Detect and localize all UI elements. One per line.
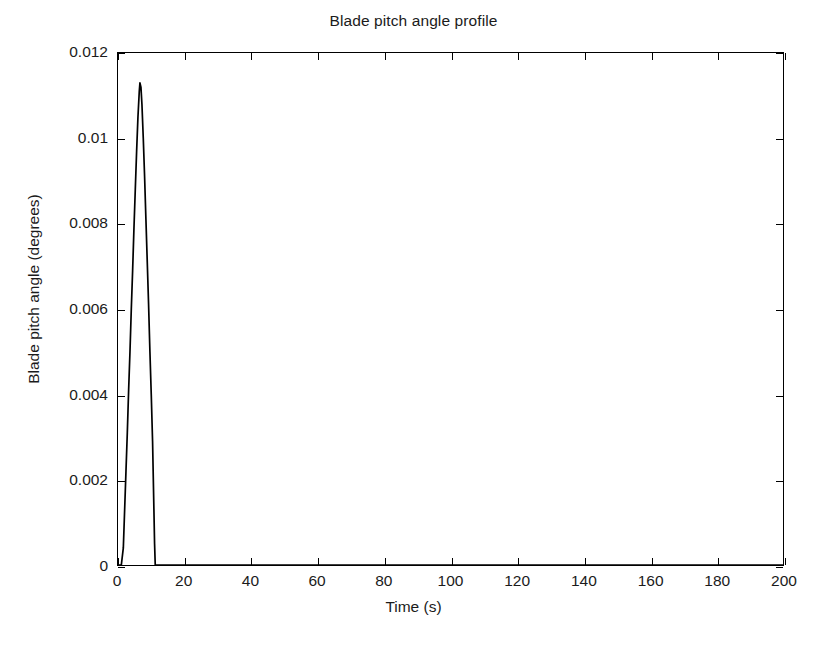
- y-tick-mark-right: [776, 567, 783, 568]
- x-tick-mark: [585, 558, 586, 565]
- y-tick-mark: [118, 224, 125, 225]
- x-tick-mark-top: [318, 53, 319, 60]
- y-tick-mark-right: [776, 53, 783, 54]
- x-tick-mark: [118, 558, 119, 565]
- y-tick-mark-right: [776, 224, 783, 225]
- x-tick-label: 0: [113, 572, 122, 590]
- y-tick-mark-right: [776, 481, 783, 482]
- y-tick-mark: [118, 396, 125, 397]
- data-line-series: [118, 53, 783, 565]
- x-tick-mark: [718, 558, 719, 565]
- x-tick-mark: [251, 558, 252, 565]
- x-tick-label: 180: [704, 572, 730, 590]
- x-tick-mark-top: [385, 53, 386, 60]
- x-tick-mark: [452, 558, 453, 565]
- y-axis-label-container: Blade pitch angle (degrees): [0, 0, 109, 645]
- x-tick-mark: [652, 558, 653, 565]
- x-tick-mark-top: [185, 53, 186, 60]
- x-tick-mark-top: [785, 53, 786, 60]
- x-tick-label: 60: [308, 572, 325, 590]
- x-tick-label: 40: [242, 572, 259, 590]
- chart-title: Blade pitch angle profile: [0, 12, 827, 30]
- y-tick-mark-right: [776, 139, 783, 140]
- x-tick-mark: [318, 558, 319, 565]
- y-tick-mark-right: [776, 396, 783, 397]
- y-tick-mark: [118, 481, 125, 482]
- x-tick-label: 200: [771, 572, 797, 590]
- x-tick-mark-top: [718, 53, 719, 60]
- x-axis-label: Time (s): [0, 598, 827, 616]
- y-tick-mark: [118, 139, 125, 140]
- x-tick-label: 80: [375, 572, 392, 590]
- x-tick-label: 120: [504, 572, 530, 590]
- x-tick-label: 100: [438, 572, 464, 590]
- x-tick-mark-top: [585, 53, 586, 60]
- x-tick-mark: [385, 558, 386, 565]
- y-tick-mark: [118, 310, 125, 311]
- y-tick-label: 0.012: [0, 43, 108, 61]
- x-tick-mark-top: [518, 53, 519, 60]
- x-tick-mark: [185, 558, 186, 565]
- x-tick-label: 20: [175, 572, 192, 590]
- y-tick-label: 0: [0, 557, 108, 575]
- x-tick-label: 140: [571, 572, 597, 590]
- y-tick-mark: [118, 53, 125, 54]
- y-tick-mark-right: [776, 310, 783, 311]
- x-tick-mark: [785, 558, 786, 565]
- x-tick-mark-top: [118, 53, 119, 60]
- x-tick-mark-top: [251, 53, 252, 60]
- x-tick-label: 160: [638, 572, 664, 590]
- y-tick-label: 0.004: [0, 386, 108, 404]
- y-tick-label: 0.006: [0, 300, 108, 318]
- y-tick-label: 0.01: [0, 129, 108, 147]
- x-tick-mark-top: [452, 53, 453, 60]
- plot-area: [117, 52, 784, 566]
- x-tick-mark: [518, 558, 519, 565]
- x-tick-mark-top: [652, 53, 653, 60]
- y-tick-mark: [118, 567, 125, 568]
- y-tick-label: 0.008: [0, 214, 108, 232]
- y-tick-label: 0.002: [0, 471, 108, 489]
- chart-figure: Blade pitch angle profile Blade pitch an…: [0, 0, 827, 645]
